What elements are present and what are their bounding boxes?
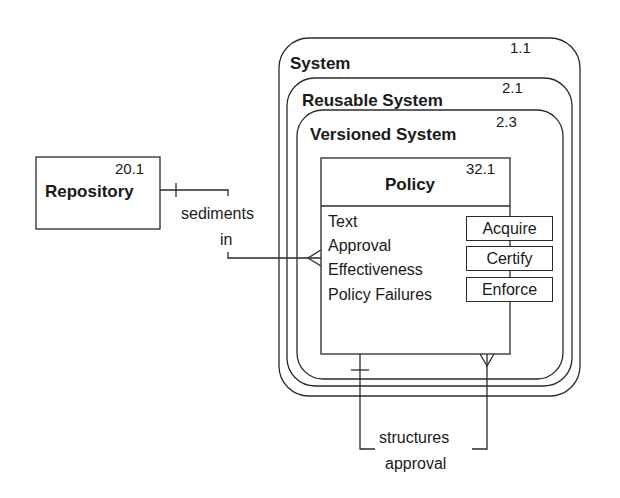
versioned-system-label: Versioned System [310, 126, 456, 143]
policy-id: 32.1 [466, 161, 495, 176]
reusable-system-label: Reusable System [302, 92, 443, 109]
attribute-text: Text [328, 214, 357, 230]
sediments-label-line2: in [220, 232, 232, 248]
structures-label-line2: approval [385, 456, 446, 472]
attribute-effectiveness: Effectiveness [328, 262, 423, 278]
operation-enforce[interactable]: Enforce [466, 277, 553, 302]
operation-acquire[interactable]: Acquire [466, 216, 553, 241]
sediments-label-line1: sediments [181, 206, 254, 222]
operation-certify[interactable]: Certify [466, 246, 553, 271]
structures-connector-right [472, 354, 487, 449]
system-id: 1.1 [510, 40, 531, 55]
versioned-system-id: 2.3 [496, 114, 517, 129]
structures-label-line1: structures [379, 430, 449, 446]
sediments-connector-bottom [228, 252, 321, 258]
sediments-connector-top [160, 190, 228, 196]
attribute-approval: Approval [328, 238, 391, 254]
repository-id: 20.1 [115, 161, 144, 176]
repository-title: Repository [45, 183, 134, 200]
reusable-system-id: 2.1 [502, 80, 523, 95]
policy-title: Policy [385, 176, 435, 193]
system-label: System [290, 55, 350, 72]
structures-connector-left [360, 354, 375, 449]
attribute-policy-failures: Policy Failures [328, 287, 432, 303]
